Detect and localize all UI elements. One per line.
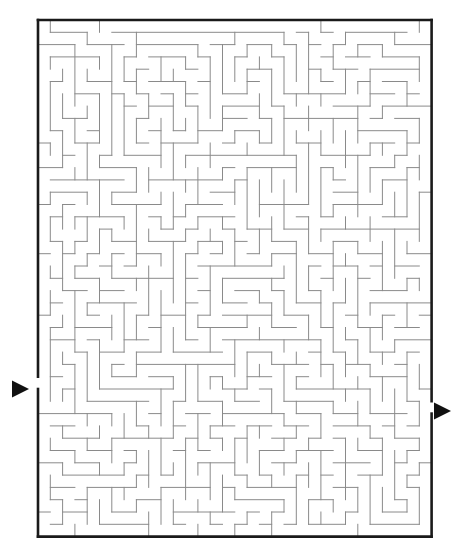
maze-page — [0, 0, 470, 559]
maze-canvas — [0, 0, 470, 559]
